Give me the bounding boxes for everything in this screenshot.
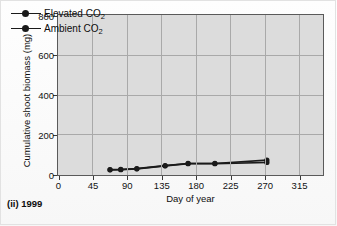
x-axis-tick-label: 180 bbox=[188, 180, 204, 191]
horizontal-gridline bbox=[58, 55, 323, 56]
plot-inner bbox=[58, 15, 323, 175]
x-axis-tick-label: 270 bbox=[257, 180, 273, 191]
y-axis-tick-label: 0 bbox=[49, 169, 54, 180]
series-marker bbox=[118, 167, 123, 172]
series-marker bbox=[185, 161, 190, 166]
y-axis-tick-label: 800 bbox=[38, 10, 54, 21]
x-axis-tick-label: 90 bbox=[122, 180, 133, 191]
horizontal-gridline bbox=[58, 134, 323, 135]
x-axis-tick-label: 225 bbox=[223, 180, 239, 191]
y-axis-tick-label: 600 bbox=[38, 50, 54, 61]
chart-figure: Cumulative shoot biomass (mg) Elevated C… bbox=[0, 0, 337, 226]
series-marker bbox=[163, 163, 168, 168]
legend-marker-icon bbox=[11, 23, 41, 33]
series-marker bbox=[212, 161, 217, 166]
x-axis-tick-label: 45 bbox=[88, 180, 99, 191]
x-axis-tick-label: 135 bbox=[154, 180, 170, 191]
legend-label-ambient: Ambient CO2 bbox=[44, 23, 103, 34]
series-marker bbox=[134, 166, 139, 171]
legend-item-elevated[interactable]: Elevated CO2 bbox=[11, 6, 105, 20]
y-axis-tick-label: 400 bbox=[38, 90, 54, 101]
y-axis-tick-label: 200 bbox=[38, 129, 54, 140]
x-axis-tick-label: 0 bbox=[56, 180, 61, 191]
x-axis-title: Day of year bbox=[57, 193, 324, 204]
chart-legend: Elevated CO2 Ambient CO2 bbox=[11, 6, 105, 35]
figure-caption: (ii) 1999 bbox=[7, 198, 42, 209]
legend-item-ambient[interactable]: Ambient CO2 bbox=[11, 21, 105, 35]
series-marker bbox=[107, 167, 112, 172]
x-axis-tick-label: 315 bbox=[292, 180, 308, 191]
horizontal-gridline bbox=[58, 95, 323, 96]
y-axis-title: Cumulative shoot biomass (mg) bbox=[21, 13, 32, 189]
legend-marker-icon bbox=[11, 8, 41, 18]
plot-area bbox=[57, 14, 324, 176]
